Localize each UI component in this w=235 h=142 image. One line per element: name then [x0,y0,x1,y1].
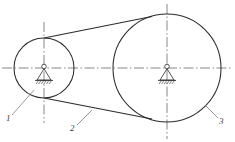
callout-3-label: 3 [218,116,224,126]
callout-1: 1 [6,90,34,123]
callout-2-label: 2 [70,123,75,133]
callout-2-leader [77,110,92,125]
callout-2: 2 [70,110,92,133]
belt-upper-tangent [44,17,152,39]
callout-1-leader [12,90,34,115]
belt-lower-tangent [44,98,152,119]
callout-3: 3 [205,105,224,126]
belt-drive-diagram: 1 2 3 [0,0,235,142]
callout-1-label: 1 [6,113,11,123]
callout-3-leader [205,105,218,118]
diagram-canvas: 1 2 3 [0,0,235,142]
